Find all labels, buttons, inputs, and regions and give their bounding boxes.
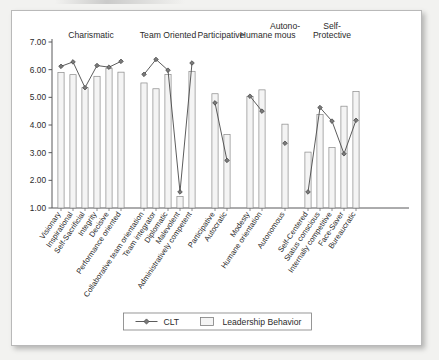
bar xyxy=(282,124,288,208)
grouped-bar-line-chart: 1.002.003.004.005.006.007.00 Charismatic… xyxy=(12,11,423,347)
bar xyxy=(189,71,195,208)
bar xyxy=(212,94,218,208)
legend-label-clt[interactable]: CLT xyxy=(164,317,180,327)
y-tick-label: 5.00 xyxy=(30,92,47,102)
y-tick-label: 7.00 xyxy=(30,37,47,47)
y-tick-label: 4.00 xyxy=(30,120,47,130)
bar-series-leadership-behavior xyxy=(58,68,359,208)
bar xyxy=(153,89,159,208)
group-label: Charismatic xyxy=(68,30,114,40)
group-label: mous xyxy=(274,30,295,40)
y-axis: 1.002.003.004.005.006.007.00 xyxy=(30,37,52,213)
y-tick-label: 6.00 xyxy=(30,65,47,75)
clt-data-point xyxy=(178,190,183,195)
group-label: Team Oriented xyxy=(140,30,197,40)
bar xyxy=(58,72,64,208)
bar xyxy=(177,196,183,208)
clt-data-point xyxy=(119,59,124,64)
bar xyxy=(329,147,335,208)
chart-plot-area: 1.002.003.004.005.006.007.00 Charismatic… xyxy=(12,11,423,347)
bar xyxy=(353,92,359,208)
x-axis xyxy=(52,208,409,211)
clt-data-point xyxy=(190,61,195,66)
bar xyxy=(305,152,311,208)
bar xyxy=(70,75,76,208)
y-tick-label: 2.00 xyxy=(30,175,47,185)
y-tick-label: 3.00 xyxy=(30,148,47,158)
group-label: Participative xyxy=(198,30,245,40)
bar xyxy=(247,97,253,209)
line-series-clt xyxy=(59,57,359,194)
y-tick-label: 1.00 xyxy=(30,203,47,213)
chart-legend[interactable]: CLTLeadership Behavior xyxy=(124,313,312,330)
group-label: Humane xyxy=(240,30,273,40)
screenshot-page: 1.002.003.004.005.006.007.00 Charismatic… xyxy=(0,0,439,360)
bar xyxy=(224,134,230,208)
bar xyxy=(106,68,112,208)
legend-label-leadership-behavior[interactable]: Leadership Behavior xyxy=(223,317,302,327)
clt-data-point xyxy=(59,64,64,69)
clt-data-point xyxy=(71,60,76,65)
legend-leadership-behavior-swatch xyxy=(201,318,214,326)
group-labels: CharismaticTeam OrientedParticipativeHum… xyxy=(68,21,351,40)
bar xyxy=(341,106,347,208)
clt-data-point xyxy=(95,63,100,68)
bar xyxy=(94,76,100,208)
bar xyxy=(317,114,323,208)
scan-artifact xyxy=(55,0,185,4)
bar xyxy=(259,90,265,208)
bar xyxy=(82,88,88,208)
chart-card: 1.002.003.004.005.006.007.00 Charismatic… xyxy=(11,10,422,346)
bar xyxy=(141,83,147,208)
category-labels: VisionaryInspirationalSelf-SacrificialIn… xyxy=(38,209,358,298)
bar xyxy=(118,72,124,208)
group-label: Protective xyxy=(313,30,351,40)
